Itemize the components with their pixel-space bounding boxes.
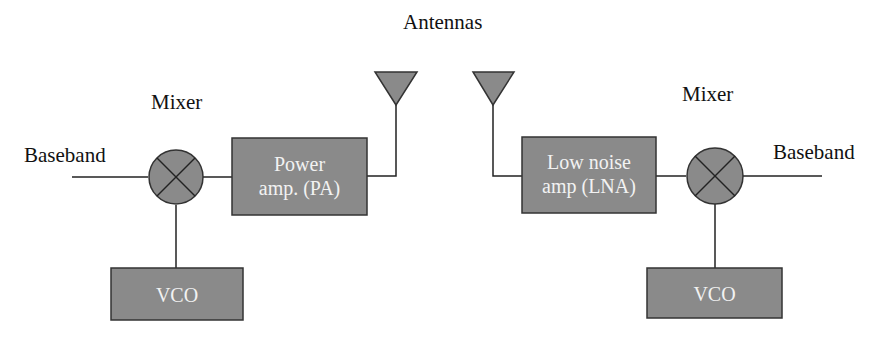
tx-power-amp-line2: amp. (PA): [232, 176, 367, 200]
rx-baseband-label: Baseband: [773, 140, 855, 165]
tx-mixer-label: Mixer: [151, 90, 202, 115]
rx-antenna-to-lna-wire: [493, 105, 522, 176]
antennas-title: Antennas: [403, 10, 482, 35]
tx-baseband-label: Baseband: [24, 143, 106, 168]
rx-lna-label: Low noise amp (LNA): [522, 150, 656, 198]
tx-vco-label: VCO: [111, 283, 243, 307]
rx-lna-line2: amp (LNA): [522, 174, 656, 198]
tx-pa-to-antenna-wire: [367, 105, 396, 176]
tx-power-amp-label: Power amp. (PA): [232, 152, 367, 200]
tx-mixer-icon: [149, 150, 203, 204]
rx-mixer-label: Mixer: [682, 82, 733, 107]
rx-mixer-icon: [687, 148, 743, 204]
rx-antenna-icon: [473, 72, 514, 105]
tx-antenna-icon: [375, 72, 417, 105]
rx-lna-line1: Low noise: [522, 150, 656, 174]
rx-vco-label: VCO: [647, 282, 782, 306]
tx-power-amp-line1: Power: [232, 152, 367, 176]
